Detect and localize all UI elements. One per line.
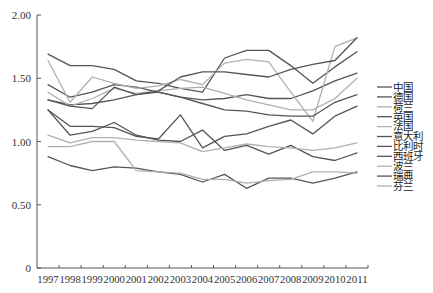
x-tick-label: 2003 — [170, 274, 191, 285]
line-chart: 00.501.001.502.00 1997199819992000200120… — [0, 0, 433, 293]
x-tick-label: 2009 — [302, 274, 323, 285]
legend-item: 芬兰 — [377, 180, 413, 192]
x-axis: 1997199819992000200120022003200420052006… — [37, 265, 368, 285]
x-tick-label: 2002 — [148, 274, 169, 285]
y-tick-label: 1.00 — [12, 136, 32, 148]
x-tick-label: 1998 — [59, 274, 80, 285]
series-line — [48, 92, 357, 116]
x-tick-label: 2005 — [214, 274, 235, 285]
x-tick-label: 1999 — [82, 274, 103, 285]
y-tick-label: 0.50 — [12, 199, 32, 211]
series-line — [48, 135, 357, 151]
y-tick-label: 0 — [26, 262, 32, 274]
legend-label: 芬兰 — [393, 180, 413, 192]
x-tick-label: 2010 — [324, 274, 345, 285]
x-tick-label: 2007 — [258, 274, 279, 285]
x-tick-label: 2001 — [126, 274, 147, 285]
x-tick-label: 2006 — [236, 274, 257, 285]
x-tick-label: 2008 — [280, 274, 301, 285]
y-tick-label: 1.50 — [12, 72, 32, 84]
x-tick-label: 1997 — [37, 274, 58, 285]
x-tick-label: 2000 — [104, 274, 125, 285]
y-axis: 00.501.001.502.00 — [12, 9, 41, 274]
series-line — [48, 38, 357, 122]
series-layer — [48, 38, 357, 189]
series-line — [48, 78, 357, 110]
x-tick-label: 2004 — [192, 274, 214, 285]
legend: 中国德国荷兰英国法国意大利比利时西班牙波兰瑞典芬兰 — [377, 81, 424, 192]
x-tick-label: 2011 — [346, 274, 367, 285]
y-tick-label: 2.00 — [12, 9, 32, 21]
